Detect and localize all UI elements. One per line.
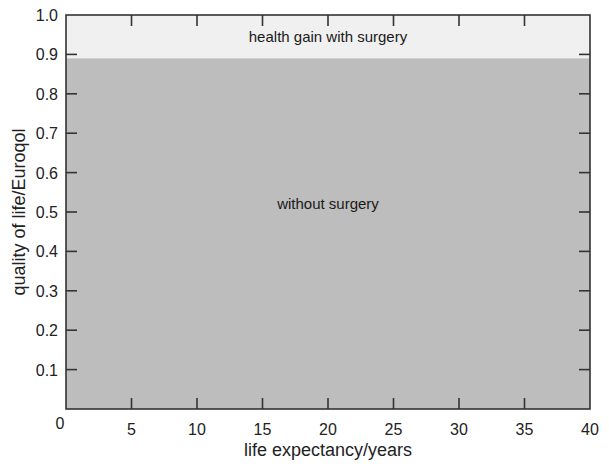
- label-without-surgery: without surgery: [276, 195, 379, 212]
- y-tick-label: 0.8: [36, 86, 58, 103]
- y-tick-label: 0.6: [36, 165, 58, 182]
- y-tick-label: 0.5: [36, 204, 58, 221]
- x-tick-label: 35: [516, 421, 534, 438]
- y-axis-title: quality of life/Euroqol: [9, 128, 29, 295]
- y-tick-label: 0.1: [36, 362, 58, 379]
- x-tick-label: 15: [254, 421, 272, 438]
- x-tick-label: 0: [56, 415, 65, 432]
- region-without-surgery: [66, 58, 590, 409]
- y-tick-label: 0.3: [36, 283, 58, 300]
- x-tick-label: 5: [127, 421, 136, 438]
- chart: health gain with surgerywithout surgery …: [0, 0, 609, 466]
- y-tick-label: 0.4: [36, 243, 58, 260]
- x-axis-title: life expectancy/years: [244, 440, 412, 460]
- y-tick-label: 1.0: [36, 7, 58, 24]
- y-tick-label: 0.9: [36, 46, 58, 63]
- x-tick-label: 30: [450, 421, 468, 438]
- y-tick-label: 0.2: [36, 322, 58, 339]
- x-tick-label: 40: [581, 421, 599, 438]
- x-tick-label: 10: [188, 421, 206, 438]
- x-tick-label: 25: [385, 421, 403, 438]
- y-tick-label: 0.7: [36, 125, 58, 142]
- x-tick-label: 20: [319, 421, 337, 438]
- label-health-gain: health gain with surgery: [249, 28, 408, 45]
